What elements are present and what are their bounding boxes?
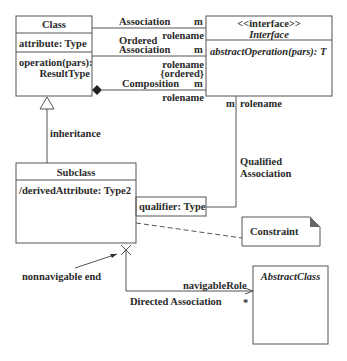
interface-stereotype: <<interface>> — [206, 18, 332, 29]
navigable-role: navigableRole — [183, 280, 247, 291]
qualified-label-2: Association — [240, 168, 291, 179]
class-operation-type: ResultType — [16, 68, 90, 79]
composition-label: Composition — [122, 78, 179, 89]
ordered-label-2: Association — [119, 44, 170, 55]
qualified-multiplicity: m — [226, 98, 235, 109]
constraint-text: Constraint — [250, 226, 298, 237]
inheritance-triangle-icon — [40, 97, 54, 109]
association-multiplicity: m — [194, 16, 203, 27]
ordered-multiplicity: m — [194, 44, 203, 55]
qualified-role: rolename — [240, 98, 282, 109]
composition-multiplicity: m — [194, 78, 203, 89]
directed-multiplicity: * — [243, 297, 248, 308]
association-label: Association — [119, 16, 170, 27]
qualifier-text: qualifier: Type — [139, 201, 205, 212]
interface-name: Interface — [206, 29, 332, 40]
inheritance-label: inheritance — [50, 128, 101, 139]
class-name: Class — [16, 19, 92, 30]
note-fold-icon — [310, 217, 320, 227]
subclass-name: Subclass — [16, 167, 136, 178]
composition-role: rolename — [140, 92, 204, 103]
subclass-attribute: /derivedAttribute: Type2 — [19, 185, 131, 196]
abstractclass-name: AbstractClass — [253, 271, 328, 282]
composition-diamond-icon — [92, 85, 102, 95]
qualified-label-1: Qualified — [240, 156, 282, 167]
constraint-link — [136, 223, 242, 238]
interface-operation: abstractOperation(pars): T — [210, 46, 326, 57]
qualified-association-line[interactable] — [206, 96, 236, 207]
class-attribute: attribute: Type — [19, 38, 87, 49]
nonnavigable-label: nonnavigable end — [22, 271, 101, 282]
class-operation: operation(pars): — [19, 57, 93, 68]
directed-label: Directed Association — [130, 296, 222, 307]
